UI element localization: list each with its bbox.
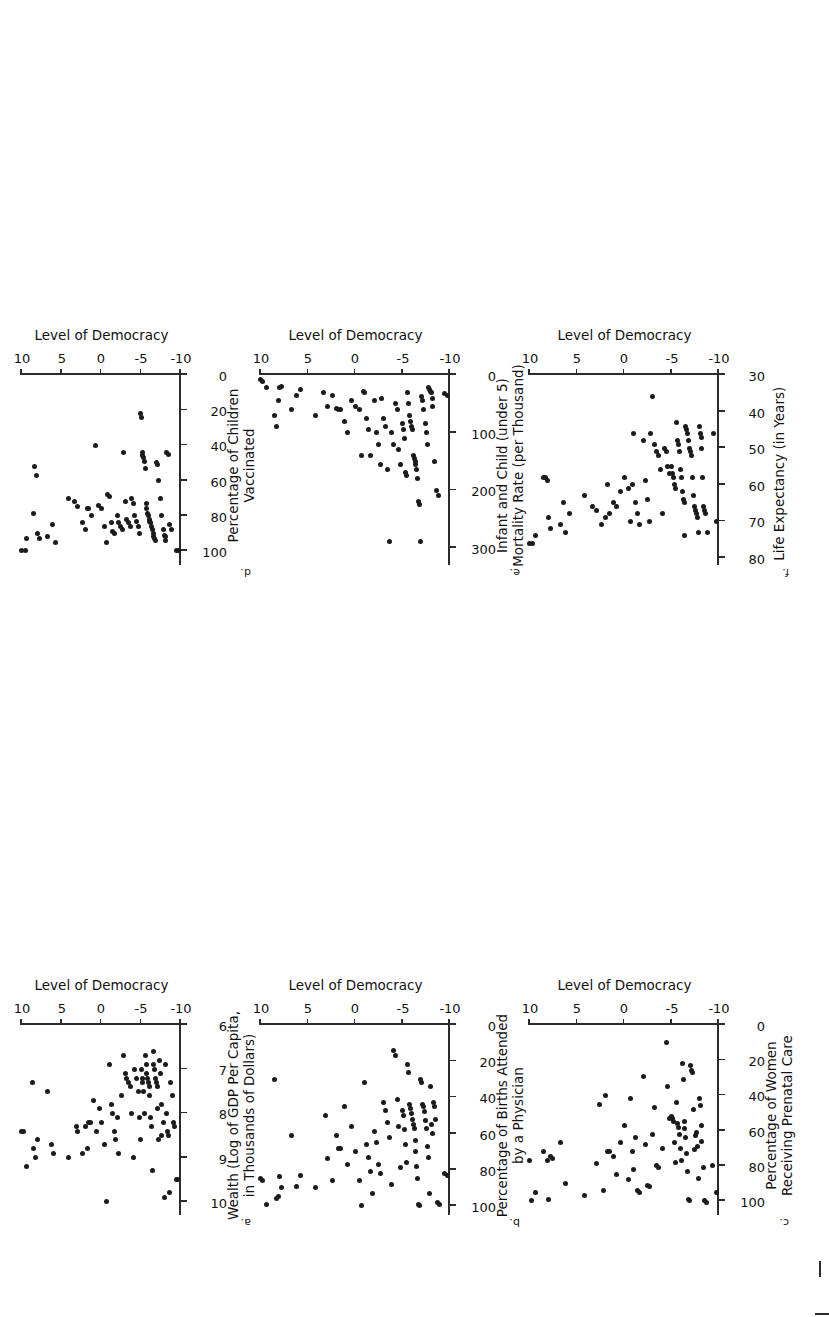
- data-point: [325, 1156, 330, 1161]
- y-tick-b-4: [450, 1168, 456, 1170]
- data-point: [385, 1120, 390, 1125]
- y-tick-d-5: [181, 549, 187, 551]
- data-point: [334, 406, 339, 411]
- data-point: [546, 1197, 551, 1202]
- y-axis-title-line: Wealth (Log of GDP Per Capita,: [225, 1001, 241, 1231]
- data-point: [674, 1100, 679, 1105]
- data-point: [345, 1162, 350, 1167]
- data-point: [376, 1162, 381, 1167]
- y-tick-label-a-3: 9: [191, 1152, 227, 1167]
- data-point: [37, 536, 42, 541]
- x-tick-label-c-4: 10: [510, 1001, 550, 1016]
- x-tick-label-e-3: 5: [288, 351, 328, 366]
- panel-c: c.-10-50510020406080100Level of Democrac…: [524, 967, 767, 1225]
- x-tick-f-1: [670, 369, 672, 375]
- y-axis-title-c: Percentage of WomenReceiving Prenatal Ca…: [763, 1001, 796, 1231]
- x-tick-label-d-0: -10: [161, 351, 201, 366]
- data-point: [330, 1178, 335, 1183]
- data-point: [126, 1080, 131, 1085]
- x-tick-e-3: [307, 369, 309, 375]
- data-point: [31, 1146, 36, 1151]
- data-point: [405, 1062, 410, 1067]
- data-point: [682, 1119, 687, 1124]
- data-point: [660, 511, 665, 516]
- panel-f: f.-10-50510304050607080Level of Democrac…: [524, 317, 767, 575]
- data-point: [664, 1040, 669, 1045]
- data-point: [342, 419, 347, 424]
- data-point: [174, 1177, 179, 1182]
- data-point: [31, 511, 36, 516]
- data-point: [425, 1144, 430, 1149]
- data-point: [272, 413, 277, 418]
- y-tick-a-2: [181, 1112, 187, 1114]
- data-point: [162, 1195, 167, 1200]
- data-point: [442, 391, 447, 396]
- data-point: [80, 1151, 85, 1156]
- data-point: [85, 506, 90, 511]
- y-tick-label-c-1: 20: [729, 1054, 765, 1069]
- panel-a: a.-10-50510678910Level of DemocracyWealt…: [16, 967, 229, 1225]
- y-axis-title-line: Percentage of Children Vaccinated: [225, 351, 258, 581]
- x-axis-line-d: [22, 373, 181, 375]
- data-point: [141, 1089, 146, 1094]
- data-point: [693, 1133, 698, 1138]
- y-tick-c-0: [719, 1023, 725, 1025]
- data-point: [400, 421, 405, 426]
- data-point: [138, 1137, 143, 1142]
- x-tick-c-3: [576, 1019, 578, 1025]
- y-tick-e-2: [450, 489, 456, 491]
- data-point: [165, 1129, 170, 1134]
- data-point: [395, 407, 400, 412]
- y-tick-e-3: [450, 546, 456, 548]
- data-point: [402, 436, 407, 441]
- y-tick-label-f-1: 40: [729, 406, 765, 421]
- y-axis-title-b: Percentage of Births Attendedby a Physic…: [494, 1001, 527, 1231]
- y-tick-f-4: [719, 520, 725, 522]
- data-point: [701, 1165, 706, 1170]
- y-tick-b-0: [450, 1023, 456, 1025]
- y-tick-label-d-5: 100: [191, 545, 227, 560]
- y-tick-f-0: [719, 373, 725, 375]
- data-point: [430, 1131, 435, 1136]
- x-tick-f-3: [576, 369, 578, 375]
- y-tick-label-a-1: 7: [191, 1063, 227, 1078]
- x-tick-b-4: [259, 1019, 261, 1025]
- data-point: [643, 1142, 648, 1147]
- data-point: [401, 427, 406, 432]
- y-tick-label-e-0: 0: [460, 369, 496, 384]
- x-tick-label-a-0: -10: [161, 1001, 201, 1016]
- data-point: [83, 527, 88, 532]
- x-tick-e-2: [354, 369, 356, 375]
- data-point: [378, 1171, 383, 1176]
- data-point: [418, 539, 423, 544]
- data-point: [662, 446, 667, 451]
- y-tick-label-f-0: 30: [729, 369, 765, 384]
- data-point: [677, 449, 682, 454]
- data-point: [424, 1126, 429, 1131]
- y-tick-label-c-2: 40: [729, 1089, 765, 1104]
- y-tick-label-a-2: 8: [191, 1107, 227, 1122]
- data-point: [645, 497, 650, 502]
- data-point: [605, 482, 610, 487]
- data-point: [53, 540, 58, 545]
- data-point: [162, 533, 167, 538]
- data-point: [147, 1084, 152, 1089]
- page-rule-top: [815, 1313, 829, 1315]
- plot-area-e: -10-505100100200300: [261, 375, 450, 565]
- data-point: [696, 530, 701, 535]
- data-point: [112, 1129, 117, 1134]
- data-point: [714, 519, 719, 524]
- data-point: [430, 396, 435, 401]
- data-point: [660, 1146, 665, 1151]
- data-point: [650, 1132, 655, 1137]
- data-point: [645, 1183, 650, 1188]
- y-axis-line-f: [717, 375, 719, 565]
- data-point: [109, 520, 114, 525]
- data-point: [428, 1084, 433, 1089]
- y-tick-e-1: [450, 431, 456, 433]
- data-point: [648, 431, 653, 436]
- data-point: [121, 450, 126, 455]
- x-tick-label-f-3: 5: [557, 351, 597, 366]
- y-axis-title-line: Receiving Prenatal Care: [779, 1001, 795, 1231]
- data-point: [376, 442, 381, 447]
